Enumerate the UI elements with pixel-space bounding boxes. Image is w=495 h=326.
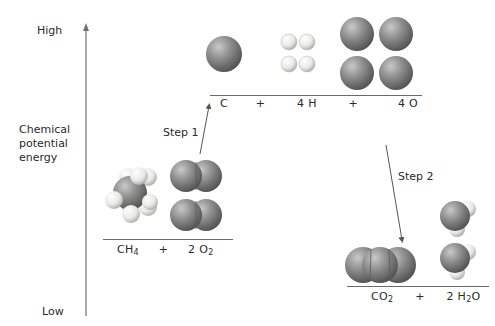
free-atoms-molecules xyxy=(206,17,413,90)
hydrogen-label: 4 H xyxy=(297,97,317,110)
carbon-atom-icon xyxy=(206,36,242,72)
plus-sign: + xyxy=(349,97,359,110)
axis-title-line: energy xyxy=(19,151,70,165)
axis-low-label: Low xyxy=(42,305,64,319)
step1-label: Step 1 xyxy=(163,126,199,140)
reactants-energy-level xyxy=(103,239,233,240)
axis-title: Chemical potential energy xyxy=(19,123,70,165)
carbon-dioxide-label: CO2 xyxy=(371,290,393,303)
atoms-formula: C + 4 H + 4 O xyxy=(220,97,418,110)
plus-sign: + xyxy=(159,243,169,256)
carbon-dioxide-molecule-icon xyxy=(345,247,416,283)
step1-arrow-icon xyxy=(200,106,209,154)
axis-title-line: Chemical xyxy=(19,123,70,137)
axis-arrowhead-icon xyxy=(83,23,89,31)
carbon-label: C xyxy=(220,97,228,110)
products-formula: CO2 + 2 H2O xyxy=(371,290,481,303)
diagram-graphics xyxy=(0,0,495,326)
oxygen-atoms-icon xyxy=(340,17,413,90)
oxygen-molecule-label: 2 O2 xyxy=(188,243,213,256)
axis-title-line: potential xyxy=(19,137,70,151)
axis-high-label: High xyxy=(37,24,62,38)
hydrogen-atoms-icon xyxy=(281,34,315,72)
plus-sign: + xyxy=(415,290,425,303)
oxygen-molecules-icon xyxy=(170,160,222,231)
water-label: 2 H2O xyxy=(446,290,480,303)
methane-molecule-icon xyxy=(105,167,158,223)
energy-axis xyxy=(83,23,89,316)
atoms-energy-level xyxy=(210,95,422,96)
oxygen-label: 4 O xyxy=(398,97,418,110)
step2-arrow-icon xyxy=(386,145,402,240)
methane-label: CH4 xyxy=(117,243,139,256)
water-molecules-icon xyxy=(440,201,476,280)
step2-label: Step 2 xyxy=(398,170,434,184)
plus-sign: + xyxy=(256,97,266,110)
reactants-formula: CH4 + 2 O2 xyxy=(117,243,214,256)
products-energy-level xyxy=(347,286,489,287)
